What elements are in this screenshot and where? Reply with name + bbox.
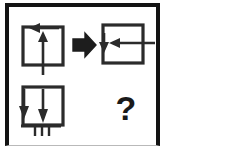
puzzle-cell-bottom-left[interactable] bbox=[13, 79, 75, 141]
puzzle-cell-top-right[interactable] bbox=[95, 17, 157, 79]
puzzle-cell-top-left[interactable] bbox=[13, 17, 75, 79]
puzzle-cell-bottom-right[interactable]: ? bbox=[95, 79, 157, 141]
left-arrow-head bbox=[109, 38, 120, 48]
left-arrow-head bbox=[29, 23, 40, 33]
box-with-up-and-left-arrow-figure bbox=[13, 17, 75, 79]
puzzle-frame: ? bbox=[5, 3, 160, 146]
right-arrow-shape bbox=[73, 33, 96, 57]
down-arrow-left-head bbox=[19, 106, 29, 119]
down-arrow-head bbox=[99, 42, 109, 53]
question-mark-label: ? bbox=[95, 79, 157, 141]
box-with-two-down-arrows-and-ground-figure bbox=[13, 79, 75, 141]
box-with-left-and-down-arrow-figure bbox=[95, 17, 157, 79]
down-arrow-inner-head bbox=[38, 109, 48, 123]
